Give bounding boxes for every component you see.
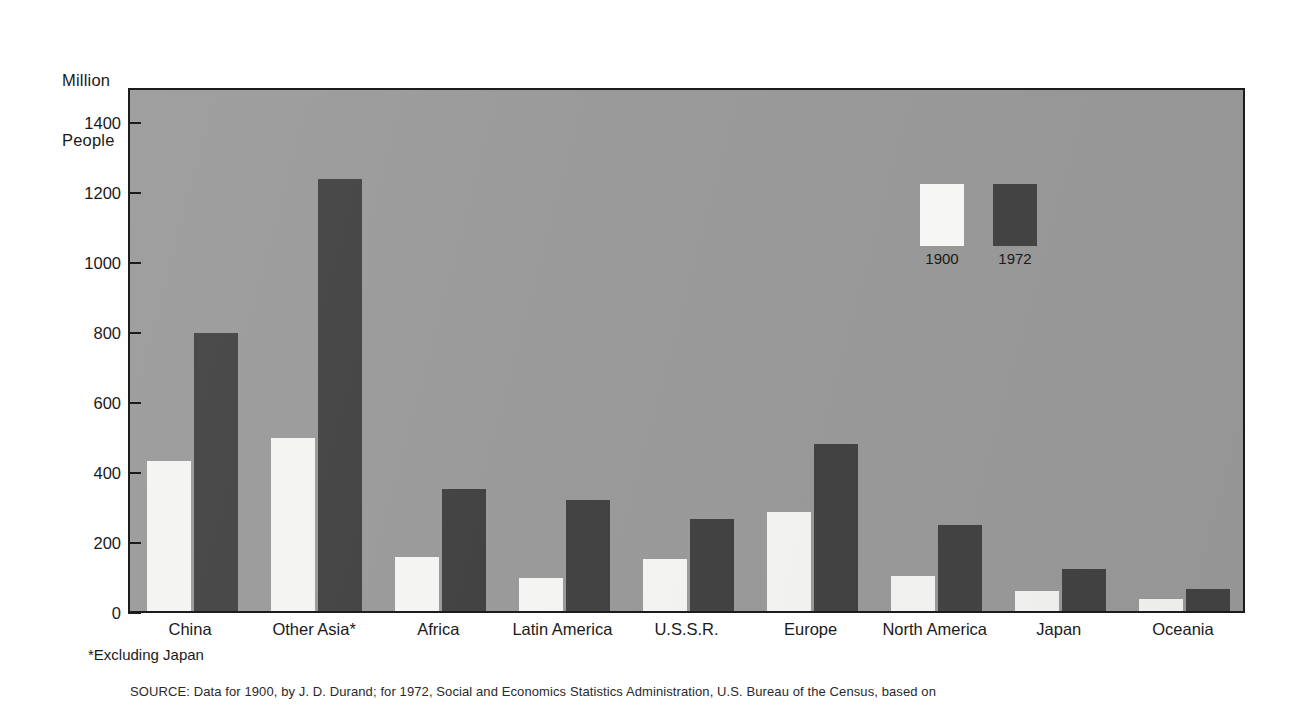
legend-label-1972: 1972 [993,250,1037,267]
plot-area [128,88,1245,613]
bar-china-1900 [147,461,191,612]
y-tick-mark [128,612,141,615]
bar-oceania-1972 [1186,589,1230,611]
bar-otherasia-1972 [318,179,362,611]
x-axis-label-latinamerica: Latin America [512,620,612,639]
x-axis-label-oceania: Oceania [1152,620,1213,639]
y-tick-label: 800 [93,324,121,343]
bar-japan-1900 [1015,591,1059,611]
y-axis-unit-line-2: People [62,130,115,150]
x-axis-label-northamerica: North America [882,620,987,639]
x-axis-label-japan: Japan [1036,620,1081,639]
x-axis-label-otherasia: Other Asia* [272,620,355,639]
bar-latinamerica-1972 [566,500,610,611]
bar-oceania-1900 [1139,599,1183,611]
bar-ussr-1972 [690,519,734,611]
legend-label-1900: 1900 [920,250,964,267]
y-tick-mark [128,122,141,125]
y-tick-label: 600 [93,394,121,413]
bar-europe-1900 [767,512,811,611]
y-tick-mark [128,262,141,265]
white-swatch [920,184,964,246]
legend-item-1972: 1972 [993,184,1037,267]
y-tick-mark [128,192,141,195]
bar-ussr-1900 [643,559,687,612]
x-axis-label-europe: Europe [784,620,837,639]
bar-latinamerica-1900 [519,578,563,611]
y-tick-label: 400 [93,464,121,483]
y-tick-label: 200 [93,534,121,553]
bar-japan-1972 [1062,569,1106,611]
y-tick-mark [128,332,141,335]
y-tick-mark [128,472,141,475]
y-tick-label: 1400 [84,114,121,133]
y-axis-unit-caption: Million People [62,30,115,170]
y-tick-mark [128,402,141,405]
legend-item-1900: 1900 [920,184,964,267]
dark-swatch [993,184,1037,246]
bar-europe-1972 [814,444,858,611]
bar-northamerica-1972 [938,525,982,611]
y-tick-label: 1200 [84,184,121,203]
footnote-excluding-japan: *Excluding Japan [88,646,204,663]
y-tick-mark [128,542,141,545]
x-axis-label-africa: Africa [417,620,459,639]
x-axis-label-ussr: U.S.S.R. [654,620,718,639]
bar-northamerica-1900 [891,576,935,611]
bar-china-1972 [194,333,238,611]
bar-africa-1900 [395,557,439,611]
y-axis-unit-line-1: Million [62,70,115,90]
bar-africa-1972 [442,489,486,612]
source-note: SOURCE: Data for 1900, by J. D. Durand; … [130,684,936,699]
x-axis-label-china: China [168,620,211,639]
y-tick-label: 0 [112,604,121,623]
bar-otherasia-1900 [271,438,315,611]
y-tick-label: 1000 [84,254,121,273]
